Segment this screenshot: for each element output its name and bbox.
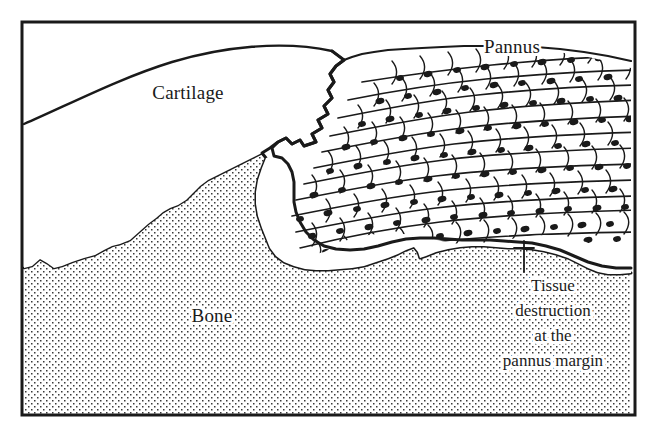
- callout-line-4: pannus margin: [503, 351, 604, 370]
- callout-line-2: destruction: [515, 301, 591, 320]
- label-bone: Bone: [192, 305, 233, 326]
- callout-line-1: Tissue: [531, 276, 575, 295]
- label-pannus: Pannus: [484, 36, 540, 57]
- label-cartilage: Cartilage: [152, 82, 223, 103]
- figure-canvas: Pannus Pannus Cartilage Cartilage Bone B…: [0, 0, 652, 432]
- pannus-illustration: Pannus Pannus Cartilage Cartilage Bone B…: [0, 0, 652, 432]
- callout-line-3: at the: [534, 326, 571, 345]
